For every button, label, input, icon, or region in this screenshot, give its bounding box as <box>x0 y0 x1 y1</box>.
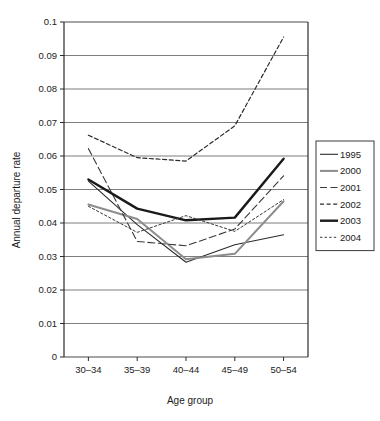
line-chart: 00.010.020.030.040.050.060.070.080.090.1… <box>0 0 380 421</box>
y-tick-label: 0.07 <box>39 117 58 128</box>
chart-container: 00.010.020.030.040.050.060.070.080.090.1… <box>0 0 380 421</box>
x-tick-label: 40–44 <box>173 364 199 375</box>
y-tick-label: 0.04 <box>39 217 58 228</box>
x-axis-title: Age group <box>167 395 214 406</box>
series-line-2000 <box>88 201 283 259</box>
y-axis-title: Annual departure rate <box>11 151 22 248</box>
legend-label-1995: 1995 <box>340 149 361 160</box>
legend-label-2002: 2002 <box>340 199 361 210</box>
legend-label-2004: 2004 <box>340 232 361 243</box>
legend-label-2000: 2000 <box>340 165 361 176</box>
y-tick-label: 0.02 <box>39 284 58 295</box>
x-tick-label: 50–54 <box>270 364 296 375</box>
series-lines-group <box>88 37 283 262</box>
y-tick-label: 0.09 <box>39 50 58 61</box>
chart-legend: 199520002001200220032004 <box>316 141 374 251</box>
x-tick-label: 30–34 <box>75 364 101 375</box>
x-tick-labels: 30–3435–3940–4445–4950–54 <box>75 364 297 375</box>
legend-label-2003: 2003 <box>340 215 361 226</box>
y-tick-label: 0.06 <box>39 150 58 161</box>
y-tick-label: 0 <box>52 351 57 362</box>
x-tick-marks <box>88 357 283 361</box>
y-tick-label: 0.1 <box>44 16 57 27</box>
x-tick-label: 35–39 <box>124 364 150 375</box>
y-tick-label: 0.03 <box>39 251 58 262</box>
y-tick-label: 0.05 <box>39 184 58 195</box>
y-tick-label: 0.01 <box>39 318 58 329</box>
y-tick-labels: 00.010.020.030.040.050.060.070.080.090.1 <box>39 16 58 362</box>
legend-label-2001: 2001 <box>340 182 361 193</box>
y-tick-label: 0.08 <box>39 83 58 94</box>
x-tick-label: 45–49 <box>222 364 248 375</box>
